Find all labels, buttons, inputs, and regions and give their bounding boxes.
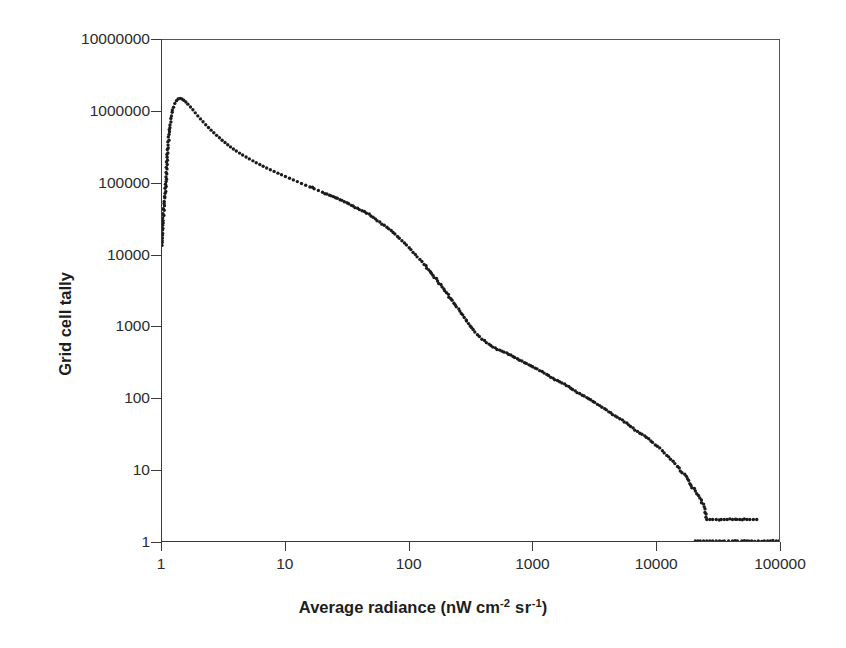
y-tick-mark <box>151 398 161 399</box>
y-tick-mark <box>151 39 161 40</box>
chart-figure: Grid cell tally 110100100010000100000100… <box>0 0 846 648</box>
x-tick-mark <box>780 542 781 551</box>
y-tick-label: 1000000 <box>0 102 150 120</box>
x-tick-label: 100 <box>396 555 422 573</box>
y-tick-label: 1000 <box>0 317 150 335</box>
data-series-scatter <box>162 40 779 541</box>
x-axis-title-exp-sr: -1 <box>532 597 542 609</box>
y-tick-mark <box>151 255 161 256</box>
x-axis-title-exp-cm: -2 <box>500 597 510 609</box>
x-tick-label: 1 <box>157 555 166 573</box>
y-tick-mark <box>151 542 161 543</box>
y-tick-mark <box>151 470 161 471</box>
x-axis-title-lead: Average radiance (nW cm <box>299 598 500 616</box>
y-tick-label: 10 <box>0 461 150 479</box>
x-tick-label: 1000 <box>515 555 549 573</box>
x-tick-label: 10000 <box>635 555 678 573</box>
x-axis-title-mid: sr <box>510 598 532 616</box>
x-tick-mark <box>656 542 657 551</box>
x-tick-mark <box>285 542 286 551</box>
y-tick-mark <box>151 326 161 327</box>
y-tick-mark <box>151 111 161 112</box>
x-axis-title-tail: ) <box>542 598 548 616</box>
y-tick-label: 100000 <box>0 174 150 192</box>
x-tick-label: 100000 <box>754 555 806 573</box>
y-tick-label: 100 <box>0 389 150 407</box>
y-tick-mark <box>151 183 161 184</box>
x-tick-label: 10 <box>276 555 293 573</box>
y-tick-label: 10000000 <box>0 30 150 48</box>
x-axis-title: Average radiance (nW cm-2 sr-1) <box>0 598 846 617</box>
plot-area <box>161 39 780 542</box>
y-tick-label: 10000 <box>0 246 150 264</box>
y-tick-label: 1 <box>0 533 150 551</box>
x-tick-mark <box>532 542 533 551</box>
x-tick-mark <box>409 542 410 551</box>
x-tick-mark <box>161 542 162 551</box>
